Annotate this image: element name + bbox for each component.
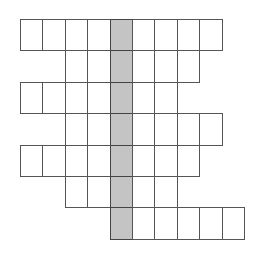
grid-cell[interactable] xyxy=(154,145,178,177)
grid-cell[interactable] xyxy=(42,145,66,177)
grid-cell[interactable] xyxy=(20,82,43,114)
grid-cell[interactable] xyxy=(87,176,111,208)
grid-cell[interactable] xyxy=(132,50,155,83)
grid-cell[interactable] xyxy=(154,113,178,146)
shaded-cell[interactable] xyxy=(110,145,133,177)
puzzle-grid xyxy=(0,0,258,256)
grid-cell[interactable] xyxy=(65,19,88,51)
grid-cell[interactable] xyxy=(177,207,200,240)
grid-cell[interactable] xyxy=(65,145,88,177)
grid-cell[interactable] xyxy=(154,50,178,83)
grid-cell[interactable] xyxy=(65,82,88,114)
grid-cell[interactable] xyxy=(154,207,178,240)
grid-cell[interactable] xyxy=(177,113,200,146)
grid-cell[interactable] xyxy=(132,145,155,177)
shaded-cell[interactable] xyxy=(110,82,133,114)
grid-cell[interactable] xyxy=(177,50,200,83)
grid-cell[interactable] xyxy=(177,145,200,177)
grid-cell[interactable] xyxy=(132,19,155,51)
grid-cell[interactable] xyxy=(177,19,200,51)
grid-cell[interactable] xyxy=(154,82,178,114)
grid-cell[interactable] xyxy=(87,50,111,83)
grid-cell[interactable] xyxy=(132,176,155,208)
grid-cell[interactable] xyxy=(87,113,111,146)
shaded-cell[interactable] xyxy=(110,176,133,208)
grid-cell[interactable] xyxy=(132,113,155,146)
grid-cell[interactable] xyxy=(87,19,111,51)
grid-cell[interactable] xyxy=(20,19,43,51)
grid-cell[interactable] xyxy=(65,113,88,146)
shaded-cell[interactable] xyxy=(110,19,133,51)
grid-cell[interactable] xyxy=(87,82,111,114)
grid-cell[interactable] xyxy=(199,19,223,51)
grid-cell[interactable] xyxy=(222,207,245,240)
grid-cell[interactable] xyxy=(87,145,111,177)
grid-cell[interactable] xyxy=(154,19,178,51)
grid-cell[interactable] xyxy=(42,19,66,51)
grid-cell[interactable] xyxy=(65,176,88,208)
grid-cell[interactable] xyxy=(199,113,223,146)
shaded-cell[interactable] xyxy=(110,113,133,146)
grid-cell[interactable] xyxy=(132,207,155,240)
grid-cell[interactable] xyxy=(132,82,155,114)
grid-cell[interactable] xyxy=(42,82,66,114)
grid-cell[interactable] xyxy=(199,207,223,240)
shaded-cell[interactable] xyxy=(110,207,133,240)
shaded-cell[interactable] xyxy=(110,50,133,83)
grid-cell[interactable] xyxy=(65,50,88,83)
grid-cell[interactable] xyxy=(20,145,43,177)
grid-cell[interactable] xyxy=(154,176,178,208)
